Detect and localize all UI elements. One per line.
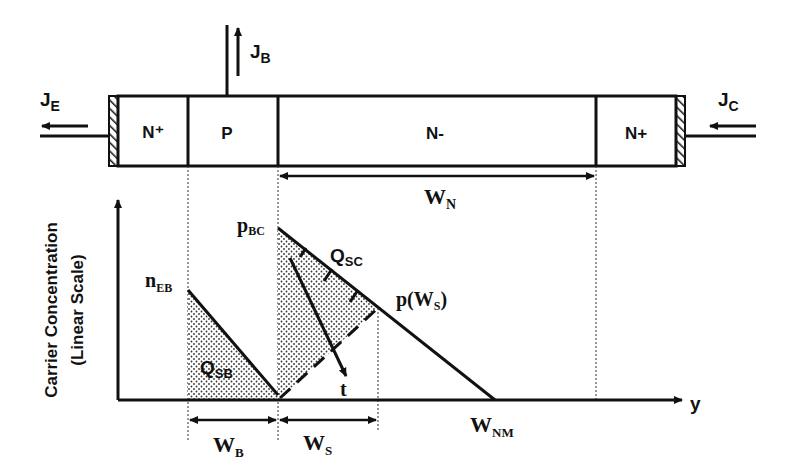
x-axis-label: y: [690, 393, 701, 414]
bjt-charge-distribution-diagram: N⁺ P N- N+ JB JE JC WN: [0, 0, 790, 465]
concentration-graph: y Carrier Concentration (Linear Scale) t…: [42, 200, 701, 460]
time-label: t: [340, 378, 347, 400]
w-n-label: WN: [424, 184, 456, 212]
base-current-label: JB: [250, 41, 271, 66]
y-axis-label-line1: Carrier Concentration: [42, 222, 61, 398]
w-nm-label: WNM: [470, 412, 514, 440]
q-sc-area: [278, 228, 378, 400]
w-s-label: WS: [303, 430, 332, 458]
device-outline: [118, 96, 676, 166]
y-axis-label-line2: (Linear Scale): [68, 254, 87, 366]
region-emitter-label: N⁺: [142, 123, 163, 142]
w-b-label: WB: [213, 432, 244, 460]
n-eb-label: nEB: [145, 269, 172, 295]
p-bc-label: pBC: [237, 214, 265, 238]
region-drift-label: N-: [426, 124, 444, 143]
device-structure: N⁺ P N- N+ JB JE JC: [40, 25, 756, 166]
q-sc-label: QSC: [330, 245, 363, 269]
region-base-label: P: [221, 124, 232, 143]
p-ws-label: p(WS): [396, 288, 447, 313]
collector-current-label: JC: [718, 89, 739, 114]
emitter-current-label: JE: [40, 89, 60, 114]
region-collector-label: N+: [625, 124, 647, 143]
